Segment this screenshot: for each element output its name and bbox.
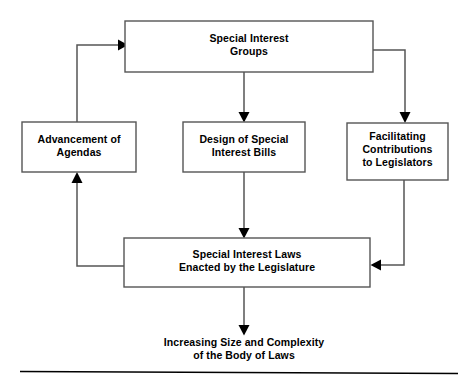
node-label-line3: to Legislators bbox=[362, 156, 432, 168]
node-label-line2: Groups bbox=[230, 45, 268, 57]
node-label-line2: Enacted by the Legislature bbox=[179, 261, 315, 273]
caption-line1: Increasing Size and Complexity bbox=[164, 336, 325, 348]
node-label-line2: Agendas bbox=[56, 146, 101, 158]
node-label-line2: Interest Bills bbox=[212, 146, 276, 158]
caption-line2: of the Body of Laws bbox=[193, 349, 295, 361]
node-label-line2: Contributions bbox=[362, 143, 432, 155]
outcome-caption: Increasing Size and Complexity of the Bo… bbox=[164, 336, 325, 361]
edge-advancement-to-sig bbox=[77, 40, 128, 123]
edge-sig-to-design bbox=[239, 72, 250, 123]
bottom-divider bbox=[20, 372, 458, 374]
node-facilitating-contributions[interactable]: Facilitating Contributions to Legislator… bbox=[347, 123, 448, 180]
node-label-line1: Special Interest bbox=[209, 32, 289, 44]
arrowhead-icon bbox=[239, 228, 250, 239]
node-design-of-special-interest-bills[interactable]: Design of Special Interest Bills bbox=[183, 122, 305, 172]
arrowhead-icon bbox=[371, 260, 382, 271]
flowchart-diagram: Special Interest Groups Advancement of A… bbox=[0, 0, 470, 379]
node-label-line1: Design of Special bbox=[199, 133, 288, 145]
flowchart-canvas: Special Interest Groups Advancement of A… bbox=[0, 0, 470, 379]
edge-facilitating-to-laws bbox=[371, 180, 405, 271]
node-label-line1: Advancement of bbox=[37, 133, 120, 145]
edge-laws-to-caption bbox=[239, 287, 250, 336]
arrowhead-icon bbox=[400, 112, 411, 123]
node-special-interest-laws[interactable]: Special Interest Laws Enacted by the Leg… bbox=[124, 238, 370, 287]
node-special-interest-groups[interactable]: Special Interest Groups bbox=[125, 21, 373, 72]
arrowhead-icon bbox=[239, 112, 250, 123]
edge-design-to-laws bbox=[239, 172, 250, 239]
edge-laws-to-advancement bbox=[72, 172, 125, 266]
node-label-line1: Facilitating bbox=[369, 130, 426, 142]
node-advancement-of-agendas[interactable]: Advancement of Agendas bbox=[22, 122, 136, 172]
edge-sig-to-facilitating bbox=[373, 50, 411, 123]
arrowhead-icon bbox=[239, 325, 250, 336]
arrowhead-icon bbox=[72, 172, 83, 183]
node-label-line1: Special Interest Laws bbox=[193, 248, 302, 260]
